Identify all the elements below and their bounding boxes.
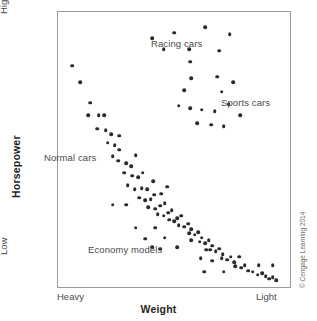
data-point — [190, 227, 194, 231]
data-point — [122, 171, 126, 175]
data-point — [147, 205, 151, 209]
data-point — [217, 247, 221, 251]
data-point — [170, 208, 174, 212]
data-point — [210, 244, 214, 248]
data-point — [117, 159, 121, 163]
data-point — [200, 236, 204, 240]
data-point — [137, 196, 141, 200]
annotation-normal-cars: Normal cars — [44, 152, 96, 163]
y-axis-high-label: High — [0, 0, 9, 14]
data-point — [187, 232, 191, 236]
data-point — [111, 155, 115, 159]
x-axis-heavy-label: Heavy — [57, 291, 84, 302]
plot-area: Racing cars Sports cars Normal cars Econ… — [57, 11, 291, 288]
data-point — [229, 255, 233, 259]
data-point — [134, 153, 138, 157]
annotation-sports-cars: Sports cars — [221, 97, 270, 108]
data-point — [125, 203, 129, 207]
data-point — [125, 161, 129, 165]
data-point — [221, 252, 225, 256]
data-point — [220, 90, 224, 94]
data-point — [143, 237, 147, 241]
data-point — [271, 263, 275, 267]
annotation-racing-cars: Racing cars — [151, 38, 202, 49]
data-point — [89, 101, 93, 105]
data-point — [70, 64, 74, 68]
data-point — [207, 238, 211, 242]
data-point — [199, 256, 203, 260]
data-point — [118, 148, 122, 152]
data-point — [213, 109, 217, 113]
data-point — [113, 144, 117, 148]
data-point — [238, 113, 242, 117]
data-point — [209, 123, 213, 127]
data-point — [96, 127, 100, 131]
data-point — [163, 236, 167, 240]
data-point — [222, 270, 226, 274]
data-point — [210, 259, 214, 263]
y-axis-title: Horsepower — [10, 135, 22, 198]
data-point — [243, 263, 247, 267]
data-point — [130, 174, 134, 178]
data-point — [111, 203, 115, 207]
data-point — [118, 134, 122, 138]
data-point — [205, 248, 209, 252]
data-point — [202, 270, 206, 274]
data-point — [103, 113, 107, 117]
data-point — [141, 171, 145, 175]
data-point — [149, 197, 153, 201]
data-point — [200, 108, 204, 112]
data-point — [190, 76, 194, 80]
data-point — [156, 212, 160, 216]
data-point — [208, 248, 212, 252]
data-point — [140, 186, 144, 190]
data-point — [274, 278, 278, 282]
copyright-credit: © Cengage Learning 2014 — [299, 212, 306, 288]
data-point — [179, 214, 183, 218]
data-point — [143, 199, 147, 203]
data-point — [186, 222, 190, 226]
data-point — [228, 32, 232, 36]
data-point — [86, 113, 90, 117]
data-point — [154, 207, 158, 211]
data-point — [220, 256, 224, 260]
data-point — [204, 25, 208, 29]
data-point — [257, 263, 261, 267]
data-point — [217, 49, 221, 53]
data-point — [154, 226, 158, 230]
data-point — [246, 269, 250, 273]
data-point — [176, 245, 180, 249]
data-point — [233, 260, 237, 264]
data-point — [256, 273, 260, 277]
data-point — [222, 124, 226, 128]
data-point — [110, 133, 114, 137]
data-point — [195, 122, 199, 126]
data-point — [162, 214, 166, 218]
data-point — [126, 183, 130, 187]
annotation-economy-models: Economy models — [88, 244, 162, 255]
data-point — [183, 89, 187, 93]
data-point — [190, 238, 194, 242]
data-point — [177, 104, 181, 108]
data-point — [251, 270, 255, 274]
data-point — [177, 223, 181, 227]
data-point — [97, 113, 101, 117]
data-point — [163, 201, 167, 205]
data-point — [78, 80, 82, 84]
data-point — [188, 106, 192, 110]
data-point — [198, 240, 202, 244]
x-axis-light-label: Light — [256, 291, 277, 302]
data-point — [231, 80, 235, 84]
data-point — [106, 141, 110, 145]
data-point — [237, 255, 241, 259]
data-point — [133, 188, 137, 192]
data-point — [158, 204, 162, 208]
data-point — [136, 175, 140, 179]
data-point — [234, 265, 238, 269]
data-point — [134, 226, 138, 230]
data-point — [129, 164, 133, 168]
data-point — [172, 31, 176, 35]
data-point — [188, 60, 192, 64]
data-point — [159, 192, 163, 196]
data-point — [152, 193, 156, 197]
